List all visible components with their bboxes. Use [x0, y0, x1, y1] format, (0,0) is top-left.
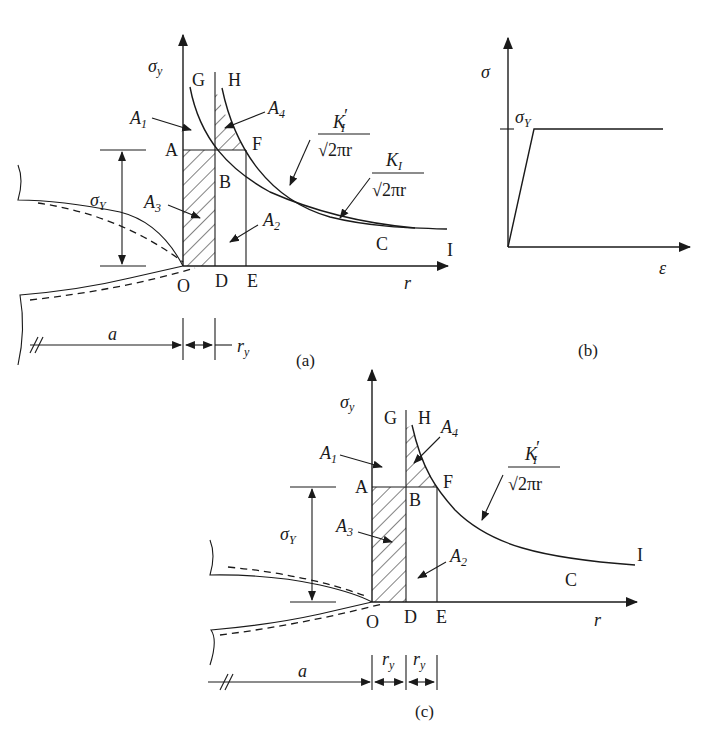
point-o: O — [366, 612, 379, 632]
label-a1: A1 — [319, 443, 337, 466]
curve-k-prime — [412, 425, 635, 565]
label-ry: ry — [237, 336, 250, 359]
area-a3-hatch — [183, 150, 215, 266]
point-i: I — [637, 545, 643, 565]
label-sigma-y: σy — [148, 56, 163, 78]
arrow-k-prime — [290, 140, 310, 185]
arrow-a1 — [152, 118, 191, 130]
label-sigma-Y: σY — [90, 190, 107, 213]
point-a: A — [165, 140, 178, 160]
label-sigma-y: σy — [340, 392, 355, 414]
label-a2: A2 — [262, 210, 280, 233]
point-d: D — [404, 607, 417, 627]
point-e: E — [436, 607, 447, 627]
label-r: r — [594, 610, 602, 630]
point-h: H — [228, 70, 241, 90]
point-g: G — [192, 70, 205, 90]
panel-a: σy G H A B F O D E C I r A1 A4 A3 A2 σY … — [18, 35, 453, 370]
point-o: O — [177, 276, 190, 296]
crack-upper-face — [18, 165, 183, 266]
label-sigma-Y: σY — [280, 524, 297, 547]
caption-b: (b) — [578, 341, 598, 360]
point-e: E — [247, 271, 258, 291]
label-r: r — [404, 273, 412, 293]
arrow-k-prime — [482, 475, 503, 520]
label-a2: A2 — [449, 546, 467, 569]
caption-a: (a) — [296, 351, 315, 370]
panel-b: σ σY ε (b) — [481, 38, 690, 360]
point-b: B — [409, 490, 421, 510]
point-h: H — [418, 408, 431, 428]
arrow-a1 — [340, 455, 382, 467]
k-prime-numerator: K′I — [524, 438, 540, 467]
point-c: C — [376, 234, 388, 254]
crack-upper-dashed — [38, 203, 183, 262]
crack-upper-face — [210, 540, 372, 602]
crack-lower-face — [18, 266, 183, 365]
label-sigma: σ — [481, 62, 491, 82]
point-b: B — [219, 172, 231, 192]
arrow-a2 — [230, 225, 258, 242]
k-prime-denominator: √2πr — [508, 474, 542, 494]
crack-lower-dashed — [220, 604, 382, 635]
point-g: G — [384, 408, 397, 428]
point-f: F — [443, 472, 453, 492]
k-prime-numerator: K′I — [332, 106, 348, 135]
arrow-a2 — [418, 562, 446, 578]
k-prime-denominator: √2πr — [318, 140, 352, 160]
stress-strain-curve — [508, 129, 663, 247]
caption-c: (c) — [415, 702, 434, 721]
fracture-diagram: σy G H A B F O D E C I r A1 A4 A3 A2 σY … — [0, 0, 707, 740]
label-yield: σY — [515, 107, 532, 130]
arrow-k — [340, 178, 370, 218]
panel-c: σy G H A B F O D E C I r A1 A4 A3 A2 σY … — [208, 370, 643, 721]
label-a: a — [298, 661, 307, 681]
point-c: C — [565, 570, 577, 590]
label-ry-1: ry — [382, 649, 395, 672]
label-epsilon: ε — [659, 258, 667, 278]
label-a3: A3 — [335, 516, 353, 539]
label-ry-2: ry — [413, 649, 426, 672]
k-denominator: √2πr — [372, 180, 406, 200]
k-numerator: KI — [385, 150, 403, 173]
point-d: D — [215, 271, 228, 291]
area-a3-hatch — [372, 487, 406, 602]
label-a3: A3 — [143, 192, 161, 215]
crack-lower-dashed — [30, 268, 195, 300]
label-a: a — [108, 324, 117, 344]
label-a4: A4 — [440, 417, 458, 440]
point-a: A — [355, 477, 368, 497]
point-f: F — [252, 134, 262, 154]
point-i: I — [447, 240, 453, 260]
label-a4: A4 — [267, 98, 285, 121]
label-a1: A1 — [129, 108, 147, 131]
